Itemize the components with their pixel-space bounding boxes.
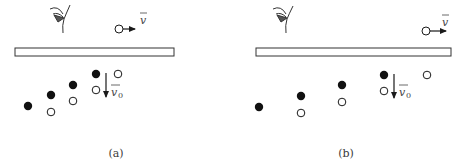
plate	[15, 48, 174, 56]
open-particle	[423, 71, 431, 79]
panel-a: v v 0 (a)	[15, 5, 174, 160]
filled-particle	[255, 103, 263, 111]
panel-b: v v 0 (b)	[255, 6, 451, 160]
filled-particle	[92, 70, 100, 78]
eye-icon	[273, 6, 293, 33]
open-particle	[69, 97, 77, 105]
diagram-canvas: v v 0 (a) v	[0, 0, 460, 165]
filled-particle	[297, 92, 305, 100]
open-particle	[380, 87, 388, 95]
filled-particle	[338, 81, 346, 89]
emission-velocity-subscript: 0	[406, 91, 411, 100]
emission-velocity-subscript: 0	[118, 91, 123, 100]
plate	[256, 48, 451, 56]
open-particle	[297, 109, 305, 117]
open-particle	[47, 108, 55, 116]
emission-velocity-label: v	[399, 86, 406, 99]
filled-particles	[24, 70, 100, 110]
filled-particle	[47, 91, 55, 99]
open-particle	[338, 98, 346, 106]
panel-caption: (b)	[338, 147, 354, 160]
velocity-label: v	[442, 16, 449, 29]
velocity-label: v	[140, 14, 147, 27]
filled-particle	[380, 71, 388, 79]
source-particle	[422, 27, 430, 35]
emission-velocity-label: v	[111, 86, 118, 99]
open-particle	[114, 70, 122, 78]
source-particle	[115, 25, 123, 33]
eye-icon	[50, 5, 70, 33]
panel-caption: (a)	[108, 147, 123, 160]
filled-particle	[24, 102, 32, 110]
filled-particles	[255, 71, 388, 111]
open-particle	[92, 86, 100, 94]
filled-particle	[69, 81, 77, 89]
